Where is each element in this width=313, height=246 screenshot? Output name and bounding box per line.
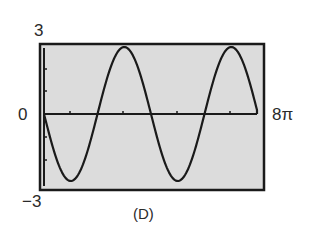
y-zero-label: 0 xyxy=(18,106,27,123)
y-min-label: −3 xyxy=(22,193,41,210)
x-max-label: 8π xyxy=(272,106,293,123)
y-max-label: 3 xyxy=(34,22,43,39)
sine-graph xyxy=(0,0,313,246)
figure-caption: (D) xyxy=(133,206,154,221)
